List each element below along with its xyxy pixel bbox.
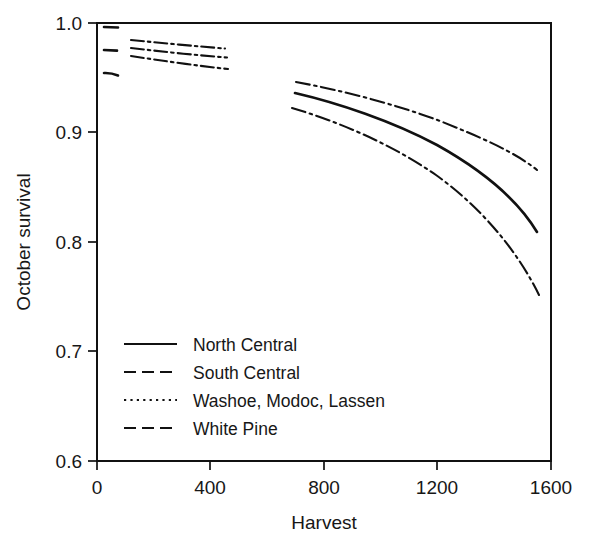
y-tick-label-0.8: 0.8 — [56, 232, 82, 253]
x-tick-label-800: 800 — [308, 477, 340, 498]
curve-south-central-left-stub — [104, 27, 118, 28]
curve-washoe-modoc-lassen-left-stub — [104, 50, 117, 51]
x-tick-label-400: 400 — [194, 477, 226, 498]
x-tick-label-1200: 1200 — [416, 477, 458, 498]
y-tick-label-0.6: 0.6 — [56, 451, 82, 472]
y-tick-label-1.0: 1.0 — [56, 13, 82, 34]
y-tick-label-0.7: 0.7 — [56, 341, 82, 362]
x-tick-label-1600: 1600 — [530, 477, 572, 498]
legend-label-north-central: North Central — [193, 335, 297, 355]
legend-label-south-central: South Central — [193, 363, 300, 383]
y-axis-title: October survival — [13, 173, 34, 310]
x-axis-title: Harvest — [291, 512, 357, 533]
x-tick-label-0: 0 — [92, 477, 103, 498]
survival-harvest-chart: 1.0 0.9 0.8 0.7 0.6 0 400 800 1200 1600 … — [0, 0, 592, 547]
y-tick-label-0.9: 0.9 — [56, 122, 82, 143]
legend-label-washoe-modoc-lassen: Washoe, Modoc, Lassen — [193, 391, 385, 411]
legend-label-white-pine: White Pine — [193, 419, 278, 439]
